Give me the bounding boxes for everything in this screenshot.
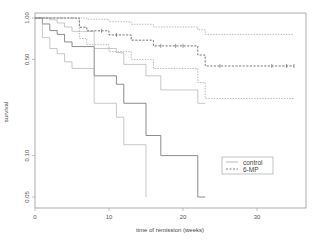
x-axis: 0102030 [33,208,261,220]
legend: control 6-MP [222,157,273,174]
x-tick-label: 10 [106,214,113,220]
survival-curve-6mp-lower-ci [35,18,294,98]
y-axis: 1.000.500.100.05 [24,12,35,203]
x-axis-label: time of remission (weeks) [136,227,204,233]
x-tick-label: 20 [180,214,187,220]
survival-chart: 0102030 1.000.500.100.05 time of remissi… [0,0,323,240]
legend-label-6mp: 6-MP [243,166,259,173]
y-tick-label: 1.00 [24,12,30,24]
y-tick-label: 0.50 [24,53,30,65]
x-tick-label: 30 [254,214,261,220]
plot-frame [35,13,306,208]
survival-curve-control-estimate [35,18,205,197]
plot-area: 0102030 1.000.500.100.05 time of remissi… [0,0,323,240]
y-tick-label: 0.05 [24,191,30,203]
survival-curve-control-upper-ci [35,18,205,103]
y-tick-label: 0.10 [24,149,30,161]
legend-label-control: control [243,159,263,166]
y-axis-label: survival [3,102,9,122]
survival-curve-6mp-estimate [35,18,294,66]
x-tick-label: 0 [33,214,37,220]
survival-curve-6mp-upper-ci [35,18,294,34]
